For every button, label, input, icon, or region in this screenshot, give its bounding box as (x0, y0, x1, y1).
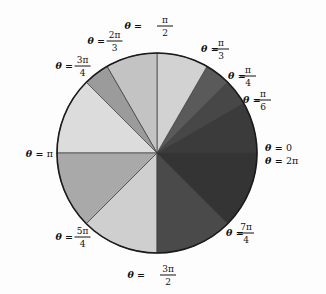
fraction-numerator: 2π (109, 30, 121, 40)
sector-group (57, 53, 257, 253)
fraction-denominator: 3 (218, 51, 224, 61)
angle-label-theta-7pi-4: θ =7π4 (226, 222, 254, 245)
angle-label-theta: θ = (124, 20, 142, 31)
fraction-numerator: 3π (77, 55, 89, 65)
angle-label-theta-2pi: θ = 2π (265, 155, 298, 166)
angle-label-theta-3pi-2: θ =3π2 (127, 264, 176, 287)
angle-label-theta: θ = (243, 94, 261, 105)
fraction-denominator: 4 (80, 239, 86, 249)
fraction-numerator: π (260, 89, 266, 99)
fraction-denominator: 4 (80, 68, 86, 78)
angle-label-theta-pi: θ = π (26, 148, 53, 159)
angle-label-theta-0: θ = 0 (265, 142, 292, 153)
unit-circle-figure: θ = 0θ = 2πθ =π6θ =π4θ =π3θ =π2θ =2π3θ =… (0, 0, 326, 294)
fraction-numerator: 7π (240, 222, 252, 232)
fraction-numerator: π (218, 38, 224, 48)
fraction-denominator: 6 (260, 102, 266, 112)
angle-label-text: θ = 0 (265, 142, 292, 153)
fraction-numerator: 3π (162, 264, 174, 274)
angle-label-theta: θ = (127, 269, 145, 280)
angle-label-theta: θ = (201, 43, 219, 54)
fraction-denominator: 4 (245, 78, 251, 88)
fraction-numerator: π (245, 65, 251, 75)
angle-label-theta-5pi-4: θ =5π4 (55, 226, 90, 249)
angle-label-theta-2pi-3: θ =2π3 (87, 30, 122, 53)
fraction-denominator: 2 (162, 28, 168, 38)
angle-label-theta: θ = (55, 231, 73, 242)
unit-circle-svg: θ = 0θ = 2πθ =π6θ =π4θ =π3θ =π2θ =2π3θ =… (0, 0, 326, 294)
fraction-denominator: 3 (112, 43, 118, 53)
angle-label-theta-pi-3: θ =π3 (201, 38, 229, 61)
angle-label-theta-pi-2: θ =π2 (124, 15, 173, 38)
angle-label-theta-3pi-4: θ =3π4 (55, 55, 90, 78)
angle-label-theta: θ = (87, 35, 105, 46)
fraction-denominator: 4 (243, 235, 249, 245)
angle-label-theta: θ = (228, 70, 246, 81)
angle-label-theta-pi-4: θ =π4 (228, 65, 256, 88)
fraction-denominator: 2 (165, 277, 171, 287)
fraction-numerator: π (162, 15, 168, 25)
angle-label-text: θ = π (26, 148, 53, 159)
fraction-numerator: 5π (77, 226, 89, 236)
angle-label-text: θ = 2π (265, 155, 298, 166)
angle-label-theta: θ = (55, 60, 73, 71)
